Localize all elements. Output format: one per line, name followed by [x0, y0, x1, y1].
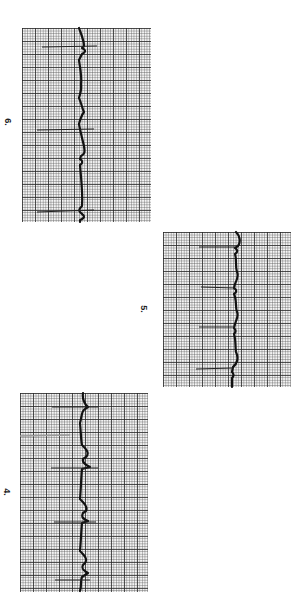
- ecg-trace-5: [163, 232, 291, 387]
- ecg-trace-6: [22, 28, 151, 222]
- ecg-strip-4: [20, 393, 148, 592]
- strip-5-label: 5.: [138, 302, 150, 316]
- strip-4-label: 4.: [1, 485, 13, 499]
- strip-6-label: 6.: [2, 115, 14, 129]
- ecg-trace-4: [20, 393, 148, 592]
- ecg-strip-6: [22, 28, 151, 222]
- ecg-strip-5: [163, 232, 291, 387]
